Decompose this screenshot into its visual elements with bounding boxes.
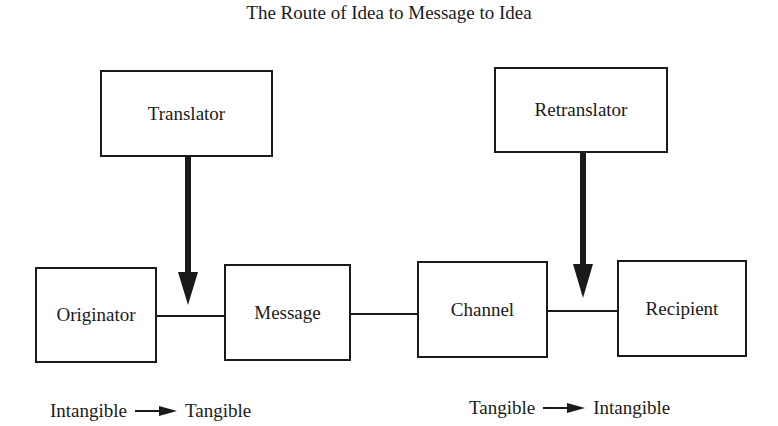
retranslator-label: Retranslator bbox=[535, 99, 628, 121]
message-box: Message bbox=[224, 264, 351, 361]
originator-box: Originator bbox=[35, 267, 157, 363]
right-arrow-icon bbox=[135, 405, 177, 417]
annotation-left: Intangible Tangible bbox=[50, 400, 251, 422]
annotation-right-from: Tangible bbox=[469, 397, 535, 419]
annotation-left-to: Tangible bbox=[185, 400, 251, 422]
message-label: Message bbox=[254, 302, 320, 324]
annotation-right: Tangible Intangible bbox=[469, 397, 670, 419]
translator-arrow-icon bbox=[178, 157, 198, 305]
channel-label: Channel bbox=[451, 299, 514, 321]
right-arrow-icon bbox=[543, 402, 585, 414]
originator-label: Originator bbox=[56, 304, 135, 326]
recipient-box: Recipient bbox=[617, 260, 747, 357]
annotation-left-from: Intangible bbox=[50, 400, 127, 422]
channel-box: Channel bbox=[417, 261, 548, 358]
translator-box: Translator bbox=[100, 70, 273, 157]
retranslator-box: Retranslator bbox=[494, 67, 668, 153]
annotation-right-to: Intangible bbox=[593, 397, 670, 419]
recipient-label: Recipient bbox=[646, 298, 719, 320]
retranslator-arrow-icon bbox=[573, 153, 593, 298]
translator-label: Translator bbox=[148, 103, 225, 125]
